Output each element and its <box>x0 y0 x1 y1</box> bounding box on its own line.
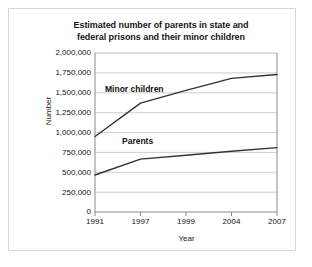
series-annotation-parents: Parents <box>122 136 153 146</box>
series-line-parents <box>95 148 277 175</box>
x-axis-tick-labels: 1991 1997 1999 2004 2007 <box>0 218 312 230</box>
x-axis-ticks <box>95 212 277 216</box>
x-tick-label: 2004 <box>212 218 252 226</box>
gridlines <box>95 53 277 192</box>
series-annotation-minor-children: Minor children <box>105 84 164 94</box>
x-tick-label: 1997 <box>121 218 161 226</box>
x-tick-label: 1991 <box>75 218 115 226</box>
x-tick-label: 1999 <box>166 218 206 226</box>
chart-figure: Estimated number of parents in state and… <box>0 0 312 267</box>
x-tick-label: 2007 <box>257 218 297 226</box>
x-axis-title: Year <box>95 234 278 243</box>
